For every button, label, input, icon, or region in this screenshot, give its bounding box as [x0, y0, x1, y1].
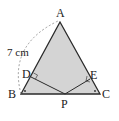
label-a: A — [56, 6, 65, 20]
label-c: C — [102, 87, 110, 101]
geometry-diagram: A B C D E P 7 cm — [0, 0, 119, 121]
label-p: P — [61, 97, 68, 111]
triangle-abc — [21, 22, 100, 94]
measurement-label: 7 cm — [7, 46, 29, 58]
angle-dot-b — [24, 90, 26, 92]
label-b: B — [8, 87, 16, 101]
label-d: D — [22, 67, 31, 81]
label-e: E — [90, 68, 97, 82]
angle-dot-c — [94, 90, 96, 92]
